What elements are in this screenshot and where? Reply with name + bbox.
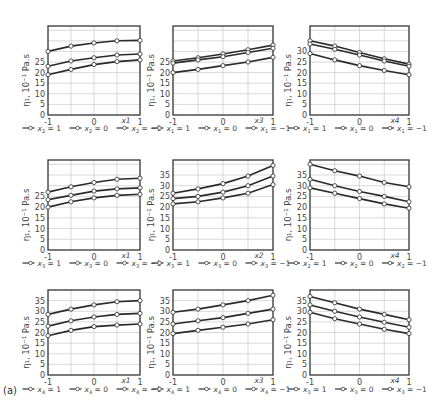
data-point-marker — [382, 194, 386, 198]
data-point-marker — [382, 202, 386, 206]
legend-entry-label: x2 = 1 — [37, 124, 62, 134]
data-point-marker — [196, 187, 200, 191]
data-point-marker — [196, 67, 200, 71]
data-point-marker — [69, 185, 73, 189]
data-point-marker — [115, 60, 119, 64]
data-point-marker — [92, 56, 96, 60]
legend-marker-icon — [76, 261, 80, 265]
data-point-marker — [138, 58, 142, 62]
legend-entry-label: x3 = −1 — [260, 259, 291, 269]
legend-entry-label: x4 = 0 — [213, 385, 238, 395]
data-point-marker — [196, 307, 200, 311]
y-tick-label: 25 — [35, 192, 45, 201]
y-tick-label: 10 — [297, 350, 307, 359]
legend-marker-icon — [388, 126, 392, 130]
legend-entry-label: x2 = −1 — [396, 259, 427, 269]
data-point-marker — [246, 184, 250, 188]
data-point-marker — [308, 186, 312, 190]
legend-marker-icon — [205, 387, 209, 391]
data-point-marker — [196, 194, 200, 198]
y-tick-label: 15 — [160, 79, 170, 88]
data-point-marker — [271, 293, 275, 297]
data-point-marker — [69, 307, 73, 311]
data-point-marker — [69, 193, 73, 197]
y-axis-label: η₁, 10⁻¹ Pa.s — [283, 188, 293, 241]
y-tick-label: 20 — [35, 329, 45, 338]
data-point-marker — [221, 181, 225, 185]
legend-marker-icon — [158, 126, 162, 130]
data-point-marker — [46, 198, 50, 202]
y-axis-label: η₁, 10⁻¹ Pa.s — [146, 54, 156, 107]
y-tick-label: 30 — [297, 307, 307, 316]
legend-entry-label: x3 = 0 — [84, 259, 109, 269]
data-point-marker — [115, 177, 119, 181]
chart-panel-5: 05101520253035-101x4η₁, 10⁻¹ Pa.sx2 = 1x… — [283, 160, 427, 269]
data-point-marker — [407, 64, 411, 68]
data-point-marker — [138, 192, 142, 196]
data-point-marker — [46, 190, 50, 194]
data-point-marker — [69, 59, 73, 63]
data-point-marker — [357, 315, 361, 319]
data-point-marker — [246, 299, 250, 303]
legend-entry-label: x2 = 0 — [349, 259, 374, 269]
data-point-marker — [308, 42, 312, 46]
data-point-marker — [357, 189, 361, 193]
y-tick-label: 20 — [297, 203, 307, 212]
y-tick-label: 20 — [160, 329, 170, 338]
data-point-marker — [221, 303, 225, 307]
legend-entry-label: x4 = 0 — [84, 385, 109, 395]
data-point-marker — [92, 196, 96, 200]
chart-panel-8: 05101520253035-101x4η₁, 10⁻¹ Pa.sx3 = 1x… — [283, 290, 427, 395]
data-point-marker — [46, 73, 50, 77]
legend-marker-icon — [294, 261, 298, 265]
y-tick-label: 25 — [35, 58, 45, 67]
data-point-marker — [196, 328, 200, 332]
data-point-marker — [382, 312, 386, 316]
data-point-marker — [196, 200, 200, 204]
legend-entry-label: x3 = 1 — [37, 259, 62, 269]
data-point-marker — [357, 53, 361, 57]
data-point-marker — [246, 60, 250, 64]
y-tick-label: 5 — [40, 100, 45, 109]
y-tick-label: 10 — [35, 90, 45, 99]
data-point-marker — [271, 307, 275, 311]
data-point-marker — [407, 325, 411, 329]
data-point-marker — [69, 67, 73, 71]
y-tick-label: 30 — [160, 307, 170, 316]
y-tick-label: 5 — [40, 235, 45, 244]
data-point-marker — [171, 322, 175, 326]
y-tick-label: 10 — [35, 350, 45, 359]
data-point-marker — [46, 64, 50, 68]
x-axis-label: x1 — [120, 376, 130, 385]
data-point-marker — [308, 294, 312, 298]
data-point-marker — [271, 183, 275, 187]
y-tick-label: 15 — [35, 339, 45, 348]
legend-entry-label: x4 = 1 — [166, 385, 191, 395]
data-point-marker — [308, 177, 312, 181]
data-point-marker — [92, 315, 96, 319]
y-tick-label: 15 — [35, 79, 45, 88]
y-tick-label: 25 — [35, 318, 45, 327]
data-point-marker — [46, 334, 50, 338]
data-point-marker — [382, 180, 386, 184]
data-point-marker — [138, 311, 142, 315]
y-tick-label: 20 — [160, 69, 170, 78]
data-point-marker — [221, 196, 225, 200]
legend-entry-label: x1 = 1 — [302, 124, 327, 134]
x-axis-label: x4 — [389, 376, 399, 385]
x-axis-label: x1 — [120, 251, 130, 260]
legend-entry-label: x3 = 1 — [302, 385, 327, 395]
y-tick-label: 10 — [297, 90, 307, 99]
legend-entry-label: x3 = −1 — [131, 259, 162, 269]
legend-marker-icon — [294, 126, 298, 130]
data-point-marker — [308, 162, 312, 166]
data-point-marker — [221, 55, 225, 59]
data-point-marker — [333, 317, 337, 321]
chart-panel-2: 051015202530-101x4η₁, 10⁻¹ Pa.sx1 = 1x1 … — [283, 26, 427, 134]
y-tick-label: 25 — [160, 192, 170, 201]
data-point-marker — [196, 319, 200, 323]
data-point-marker — [407, 318, 411, 322]
y-tick-label: 10 — [297, 225, 307, 234]
figure-grid: 0510152025-101x1η₁, 10⁻¹ Pa.sx2 = 1x2 = … — [0, 0, 435, 414]
data-point-marker — [115, 300, 119, 304]
